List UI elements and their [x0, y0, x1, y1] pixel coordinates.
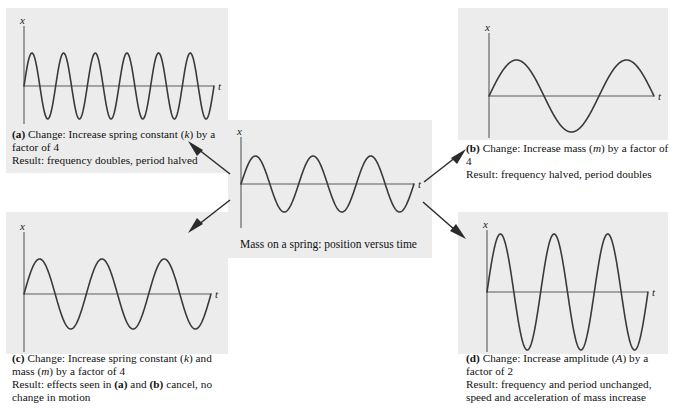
panel-c-result-label: Result: — [12, 378, 44, 390]
panel-d-change-text-1: Increase amplitude ( — [523, 352, 615, 364]
panel-a-change-label: Change: — [28, 128, 66, 140]
panel-c-result-ref-b: (b) — [150, 378, 164, 390]
panel-a-svg: x t — [6, 8, 228, 126]
panel-a-t-axis-label: t — [218, 80, 222, 92]
panel-c-t-axis-label: t — [215, 288, 219, 300]
panel-b-plot: x t — [458, 8, 668, 140]
panel-b-x-axis-label: x — [484, 21, 490, 33]
arrow-center-to-panel-d — [420, 198, 468, 240]
panel-c-change-text-3: ) by a factor of 4 — [49, 365, 125, 377]
panel-d-svg: x t — [458, 212, 668, 354]
panel-c-change-label: Change: — [27, 352, 65, 364]
panel-d-caption: (d) Change: Increase amplitude (A) by a … — [466, 352, 672, 404]
panel-a-result-label: Result: — [12, 154, 44, 166]
panel-c-result-text-2: and — [128, 378, 150, 390]
center-x-axis-label: x — [236, 125, 242, 137]
panel-c-caption: (c) Change: Increase spring constant (k)… — [12, 352, 226, 404]
panel-c-x-axis-label: x — [19, 220, 25, 232]
center-panel-caption: Mass on a spring: position versus time — [240, 238, 430, 250]
panel-a-x-axis-label: x — [19, 14, 25, 26]
arrow-center-to-panel-b — [420, 148, 468, 186]
panel-a-change-text-1: Increase spring constant ( — [69, 128, 185, 140]
panel-b-change-label: Change: — [483, 142, 521, 154]
panel-a-plot: x t — [6, 8, 228, 126]
panel-c-result-text-1: effects seen in — [47, 378, 114, 390]
panel-b-change-text-1: Increase mass ( — [523, 142, 593, 154]
panel-b-tag: (b) — [466, 142, 480, 154]
panel-b-svg: x t — [458, 8, 668, 140]
panel-b-result-text: frequency halved, period doubles — [501, 168, 652, 180]
panel-d-t-axis-label: t — [652, 286, 656, 298]
panel-b-change-symbol: m — [593, 142, 601, 154]
panel-d-result-label: Result: — [466, 378, 498, 390]
panel-c-tag: (c) — [12, 352, 25, 364]
center-panel-plot: x t — [228, 120, 432, 230]
arrow-center-to-panel-c — [186, 196, 234, 234]
panel-b-t-axis-label: t — [658, 90, 662, 102]
panel-a-result-text: frequency doubles, period halved — [47, 154, 198, 166]
panel-b-result-label: Result: — [466, 168, 498, 180]
arrow-center-to-panel-a — [186, 140, 234, 178]
panel-d-plot: x t — [458, 212, 668, 354]
panel-d-change-label: Change: — [483, 352, 521, 364]
panel-a-tag: (a) — [12, 128, 25, 140]
panel-c-result-ref-a: (a) — [114, 378, 127, 390]
panel-d-tag: (d) — [466, 352, 480, 364]
center-panel-svg: x t — [228, 120, 432, 230]
panel-c-change-text-1: Increase spring constant ( — [68, 352, 184, 364]
center-caption-text: Mass on a spring: position versus time — [240, 238, 417, 250]
panel-d-x-axis-label: x — [482, 218, 488, 230]
panel-b-caption: (b) Change: Increase mass (m) by a facto… — [466, 142, 670, 181]
